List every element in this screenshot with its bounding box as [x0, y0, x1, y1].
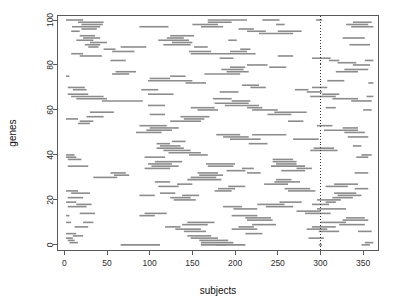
x-tick-label: 300: [313, 258, 327, 268]
y-tick-label: 40: [45, 150, 55, 160]
y-tick-label: 80: [45, 60, 55, 70]
x-tick-label: 0: [62, 258, 67, 268]
y-tick-label: 20: [45, 195, 55, 205]
y-tick-label: 60: [45, 105, 55, 115]
x-tick-label: 50: [102, 258, 112, 268]
y-tick-label: 100: [45, 13, 55, 27]
y-tick-label: 0: [45, 242, 55, 247]
x-tick-label: 200: [228, 258, 242, 268]
x-tick-label: 150: [185, 258, 199, 268]
y-axis-title: genes: [7, 119, 18, 146]
x-tick-label: 250: [271, 258, 285, 268]
x-tick-label: 100: [143, 258, 157, 268]
x-axis-title: subjects: [200, 285, 237, 296]
x-tick-label: 350: [356, 258, 370, 268]
chart-figure: 050100150200250300350 020406080100 subje…: [0, 0, 407, 306]
scatter-segment-plot: 050100150200250300350 020406080100 subje…: [0, 0, 407, 306]
